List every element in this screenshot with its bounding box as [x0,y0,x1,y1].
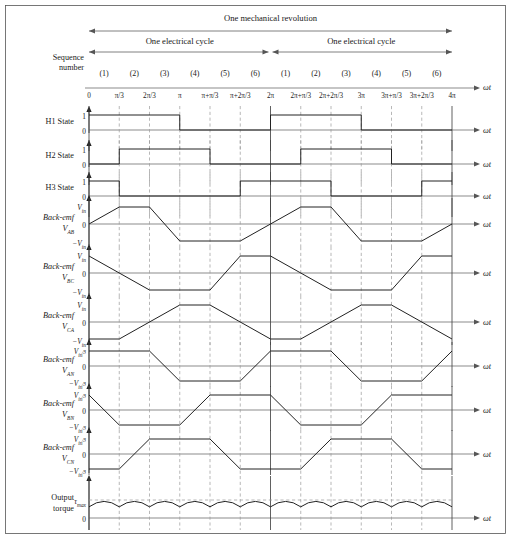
zero-axis-arrowhead [474,221,480,226]
electrical-cycle-2-arrow-arrowhead-left [273,49,279,54]
x-axis-tick-label: 3π+π/3 [381,92,402,100]
y-value-low: 0 [82,161,86,170]
zero-axis-arrowhead [474,127,480,132]
x-axis-tick-label: 2π [267,92,275,100]
row-label-main: Back-emf [43,262,76,271]
sequence-number-cell: (1) [99,69,109,78]
x-axis-tick-label: 3π+2π/3 [410,92,434,100]
waveform-row-h2-state: ωtH2 State10 [46,140,492,185]
mechanical-revolution-arrow [89,28,452,33]
sequence-number-label-line2: number [59,63,84,72]
sequence-number-cell: (3) [341,69,351,78]
y-value-low: 0 [82,193,86,202]
y-value-negative: −Vin⁄3 [69,467,87,478]
diagram-header: One mechanical revolutionOne electrical … [53,13,452,72]
mechanical-revolution-arrow-arrowhead-left [89,28,95,33]
y-value-zero: 0 [82,319,86,328]
row-label-main: Back-emf [43,355,76,364]
omega-t-label: ωt [483,406,492,415]
electrical-cycle-2-label: One electrical cycle [327,36,395,46]
waveform-row-back-emf-vcn: ωtBack-emfVCNVin⁄30−Vin⁄3 [43,427,492,478]
zero-axis-arrowhead [474,319,480,324]
row-label-main: H2 State [46,151,75,160]
sequence-number-cell: (2) [130,69,140,78]
axis-arrowhead [474,85,480,90]
zero-axis-arrowhead [474,193,480,198]
sequence-number-cell: (4) [372,69,382,78]
y-value-zero: 0 [82,363,86,372]
y-value-negative: −Vin⁄3 [69,423,87,434]
y-value-zero: 0 [82,407,86,416]
row-label-main: Back-emf [43,443,76,452]
waveform-row-output-torque: ωtOutputtorqueτmax0 [51,475,492,530]
x-axis-tick-label: 4π [448,92,456,100]
y-value-tau-max: τmax [74,497,86,508]
x-axis-tick-label: π/3 [115,92,125,100]
bldc-timing-diagram: One mechanical revolutionOne electrical … [0,0,511,540]
omega-t-label-top: ωt [483,83,492,92]
sequence-number-cell: (1) [281,69,291,78]
row-label-main: Back-emf [43,311,76,320]
omega-t-label: ωt [483,269,492,278]
y-value-positive: Vin [77,252,86,263]
electrical-cycle-1-arrow [89,49,269,54]
omega-t-label: ωt [483,318,492,327]
sequence-number-cell: (6) [251,69,261,78]
y-value-positive: Vin⁄3 [74,347,87,358]
x-axis-tick-label: 2π/3 [143,92,156,100]
waveform-canvas: One mechanical revolutionOne electrical … [0,0,511,540]
y-value-zero: 0 [82,451,86,460]
zero-axis-arrowhead [474,451,480,456]
row-label-sub: VBC [62,273,74,284]
y-value-high: 1 [82,178,86,187]
row-label-main: Output [51,493,74,502]
y-value-high: 1 [82,112,86,121]
zero-axis-arrowhead [474,407,480,412]
y-value-positive: Vin⁄3 [74,435,87,446]
y-value-negative: −Vin⁄3 [69,379,87,390]
x-axis-tick-label: 3π [358,92,366,100]
y-value-low: 0 [82,127,86,136]
omega-t-label: ωt [483,160,492,169]
omega-t-label: ωt [483,192,492,201]
x-axis-tick-label: 2π+π/3 [291,92,312,100]
y-value-positive: Vin [77,203,86,214]
row-label-sub: VCA [62,322,75,333]
x-axis-tick-label: π+2π/3 [230,92,251,100]
x-axis-tick-label: 2π+2π/3 [319,92,343,100]
x-axis-tick-label: π+π/3 [202,92,219,100]
row-label-sub: VAB [62,224,74,235]
waveform-row-h1-state: ωtH1 State10 [46,106,492,151]
signal-waveform [89,115,452,130]
sequence-number-label-line1: Sequence [53,53,85,62]
row-label-main: Back-emf [43,213,76,222]
electrical-cycle-1-label: One electrical cycle [146,36,214,46]
row-label-sub: VBN [62,410,74,421]
zero-axis-arrowhead [474,161,480,166]
waveform-row-back-emf-vbc: ωtBack-emfVBCVin0−Vin [43,244,492,299]
electrical-cycle-1-arrow-arrowhead-left [89,49,95,54]
sequence-number-row: (1)(2)(3)(4)(5)(6)(1)(2)(3)(4)(5)(6) [99,69,441,78]
y-value-zero: 0 [82,221,86,230]
zero-axis-arrowhead [474,270,480,275]
electrical-cycle-2-arrow-arrowhead-right [446,49,452,54]
row-label-sub: VCN [62,454,75,465]
y-value-negative: −Vin [72,239,86,250]
y-value-high: 1 [82,146,86,155]
zero-axis-arrowhead [474,363,480,368]
sequence-number-cell: (2) [311,69,321,78]
y-value-zero: 0 [82,270,86,279]
y-value-negative: −Vin [72,288,86,299]
omega-t-label: ωt [483,362,492,371]
omega-t-label: ωt [483,514,492,523]
sequence-number-cell: (3) [160,69,170,78]
mechanical-revolution-label: One mechanical revolution [224,13,318,23]
omega-t-label: ωt [483,126,492,135]
row-label-main: H3 State [46,183,75,192]
waveform-row-back-emf-vca: ωtBack-emfVCAVin0−Vin [43,293,492,348]
y-value-zero: 0 [82,515,86,524]
x-axis-tick-label: π [178,92,182,100]
waveform-row-back-emf-vbn: ωtBack-emfVBNVin⁄30−Vin⁄3 [43,383,492,434]
waveform-row-back-emf-vab: ωtBack-emfVABVin0−Vin [43,195,492,250]
row-label-sub: torque [53,504,74,513]
